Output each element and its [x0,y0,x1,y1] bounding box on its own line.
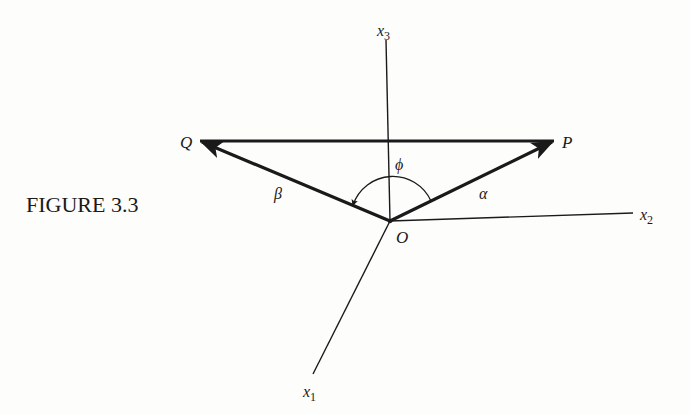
origin-point [388,219,392,223]
x2-axis [390,213,633,221]
x1-axis [313,221,390,374]
vector-beta [202,142,390,221]
axis-label-x2: x2 [639,206,653,227]
axis-label-x3: x3 [376,22,390,43]
vector-alpha [390,142,552,221]
vector-label-beta: β [273,185,282,203]
angle-label-phi: ϕ [395,156,403,174]
axis-label-x1: x1 [302,383,316,404]
vector-diagram: x3 x2 x1 Q P O β α ϕ [0,0,690,414]
point-label-q: Q [180,133,192,152]
vector-label-alpha: α [479,185,488,202]
x3-axis [386,40,390,221]
point-label-p: P [561,133,572,152]
point-label-o: O [396,228,408,247]
angle-arc-phi [353,176,431,205]
